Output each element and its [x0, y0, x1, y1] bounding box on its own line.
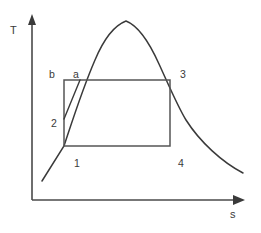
ts-diagram-container: b a 3 2 1 4 T s	[0, 0, 261, 233]
state-label-1: 1	[74, 157, 80, 169]
ts-diagram-svg: b a 3 2 1 4 T s	[0, 0, 261, 233]
state-label-2: 2	[51, 117, 57, 129]
temperature-axis-label: T	[10, 24, 17, 36]
state-label-a: a	[73, 68, 79, 80]
state-label-3: 3	[180, 68, 186, 80]
entropy-axis-arrow-icon	[233, 195, 245, 205]
temperature-axis-arrow-icon	[28, 14, 36, 25]
entropy-axis-label: s	[230, 208, 236, 220]
state-label-b: b	[49, 68, 55, 80]
saturation-dome-curve	[42, 21, 243, 181]
process-line-2-to-a	[64, 80, 80, 119]
state-label-4: 4	[178, 157, 184, 169]
carnot-cycle-rectangle	[64, 80, 170, 146]
